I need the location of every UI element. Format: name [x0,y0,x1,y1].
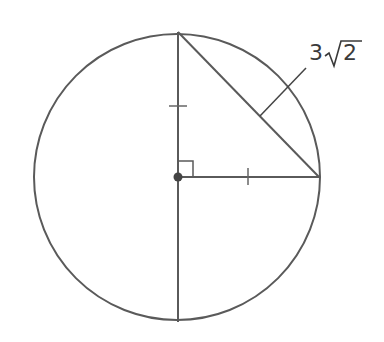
chord-length-coefficient: 3 [309,40,323,65]
chord-label-leader [260,68,306,116]
center-point [174,173,183,182]
circle-diagram [0,0,384,342]
chord-length-radicand: 2 [343,40,357,65]
